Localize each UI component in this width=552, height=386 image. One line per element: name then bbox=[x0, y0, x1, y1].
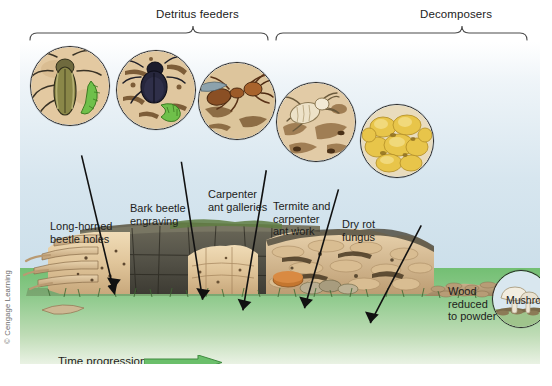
inset-carpenter-ant bbox=[198, 62, 276, 140]
callout-bark-beetle-engraving: Bark beetle engraving bbox=[130, 202, 186, 227]
callout-carpenter-ant-galleries: Carpenter ant galleries bbox=[208, 188, 267, 213]
figure-root: Detritus feeders Decomposers bbox=[0, 0, 552, 386]
time-progression-label: Time progression bbox=[58, 355, 146, 364]
callout-dry-rot-fungus: Dry rot fungus bbox=[342, 218, 375, 243]
callout-termite-and-carpenter-ant-work: Termite and carpenter ant work bbox=[273, 200, 330, 238]
inset-bark-beetle bbox=[116, 50, 196, 130]
time-progression-arrow bbox=[144, 355, 222, 364]
inset-dry-rot-fungus bbox=[360, 104, 434, 178]
callout-powder-broken-down: Powder broken down by decomposers into p… bbox=[428, 362, 540, 364]
inset-termite-and-carpenter-ant-work bbox=[276, 82, 356, 162]
callout-mushroom: Mushroom bbox=[506, 294, 540, 307]
copyright-credit: © Cengage Learning bbox=[3, 257, 17, 357]
bracket-label-decomposers: Decomposers bbox=[420, 8, 492, 20]
callout-long-horned-beetle-holes: Long-horned beetle holes bbox=[50, 220, 112, 245]
illustration-panel: Long-horned beetle holes Bark beetle eng… bbox=[20, 42, 540, 364]
callout-wood-reduced-to-powder: Wood reduced to powder bbox=[448, 285, 496, 323]
bracket-label-detritus-feeders: Detritus feeders bbox=[156, 8, 239, 20]
inset-long-horned-beetle bbox=[30, 46, 110, 126]
